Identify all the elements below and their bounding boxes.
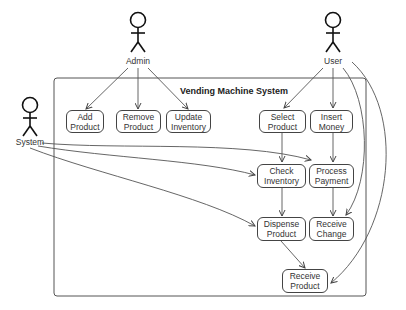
use-case-insert-money[interactable]: Insert Money bbox=[310, 110, 353, 133]
user-actor-icon bbox=[326, 13, 341, 53]
system-actor-icon bbox=[23, 98, 38, 137]
use-case-receive-change[interactable]: Receive Change bbox=[309, 217, 354, 241]
use-case-check-inventory[interactable]: Check Inventory bbox=[257, 164, 306, 188]
system-title: Vending Machine System bbox=[180, 86, 288, 96]
edge-user-select bbox=[284, 68, 323, 108]
admin-actor-icon bbox=[131, 13, 146, 53]
use-case-receive-product[interactable]: Receive Product bbox=[282, 269, 328, 293]
use-case-add-product[interactable]: Add Product bbox=[66, 110, 104, 133]
edge-user-change bbox=[343, 68, 364, 215]
edge-system-process bbox=[42, 143, 311, 160]
edge-dispense-receive bbox=[281, 241, 305, 268]
admin-actor-label: Admin bbox=[120, 56, 156, 66]
use-case-select-product[interactable]: Select Product bbox=[259, 110, 306, 133]
system-actor-label: System bbox=[8, 137, 52, 147]
user-actor-label: User bbox=[315, 56, 351, 66]
edge-admin-add bbox=[86, 68, 128, 109]
use-case-update-inventory[interactable]: Update Inventory bbox=[166, 110, 211, 133]
edge-system-dispense bbox=[30, 148, 255, 226]
use-case-dispense-product[interactable]: Dispense Product bbox=[257, 217, 306, 241]
diagram-canvas bbox=[0, 0, 406, 310]
use-case-process-payment[interactable]: Process Payment bbox=[309, 164, 354, 188]
use-case-remove-product[interactable]: Remove Product bbox=[116, 110, 161, 133]
edge-system-check bbox=[38, 146, 255, 175]
